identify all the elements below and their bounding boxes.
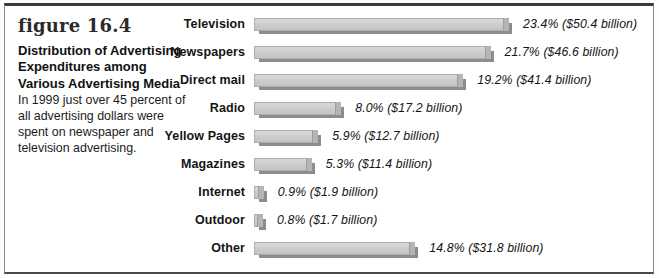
value-label: 21.7% ($46.6 billion) [505, 45, 619, 59]
category-label: Television [5, 17, 254, 31]
bar-yellow-pages [254, 130, 318, 143]
chart-row: Magazines5.3% ($11.4 billion) [5, 151, 647, 177]
chart-row: Yellow Pages5.9% ($12.7 billion) [5, 123, 647, 149]
bar-chart: Television23.4% ($50.4 billion)Newspaper… [5, 11, 647, 261]
bar-other [254, 242, 415, 255]
value-label: 5.3% ($11.4 billion) [326, 157, 432, 171]
chart-row: Television23.4% ($50.4 billion) [5, 11, 647, 37]
bar-direct-mail [254, 74, 463, 87]
value-label: 23.4% ($50.4 billion) [523, 17, 637, 31]
chart-row: Outdoor0.8% ($1.7 billion) [5, 207, 647, 233]
category-label: Magazines [5, 157, 254, 171]
value-label: 19.2% ($41.4 billion) [477, 73, 591, 87]
bar-magazines [254, 158, 312, 171]
figure-frame: figure 16.4 Distribution of Advertising … [4, 3, 654, 274]
chart-row: Internet0.9% ($1.9 billion) [5, 179, 647, 205]
category-label: Internet [5, 185, 254, 199]
category-label: Direct mail [5, 73, 254, 87]
category-label: Newspapers [5, 45, 254, 59]
category-label: Outdoor [5, 213, 254, 227]
bar-radio [254, 102, 341, 115]
bar-television [254, 18, 509, 31]
value-label: 5.9% ($12.7 billion) [332, 129, 439, 143]
category-label: Other [5, 241, 254, 255]
value-label: 0.9% ($1.9 billion) [278, 185, 378, 199]
value-label: 8.0% ($17.2 billion) [355, 101, 462, 115]
chart-row: Other14.8% ($31.8 billion) [5, 235, 647, 261]
chart-row: Direct mail19.2% ($41.4 billion) [5, 67, 647, 93]
bar-internet [254, 186, 264, 199]
bar-newspapers [254, 46, 491, 59]
category-label: Radio [5, 101, 254, 115]
bar-outdoor [254, 214, 263, 227]
category-label: Yellow Pages [5, 129, 254, 143]
value-label: 14.8% ($31.8 billion) [429, 241, 543, 255]
chart-row: Newspapers21.7% ($46.6 billion) [5, 39, 647, 65]
chart-row: Radio8.0% ($17.2 billion) [5, 95, 647, 121]
value-label: 0.8% ($1.7 billion) [277, 213, 377, 227]
